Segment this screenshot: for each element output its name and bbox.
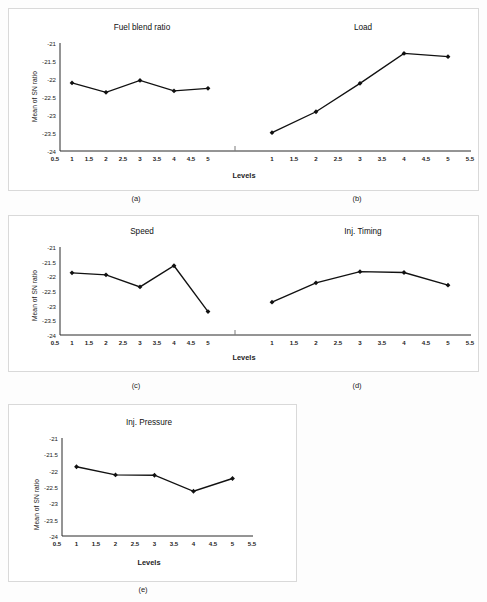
data-point-marker <box>172 88 177 93</box>
data-point-marker <box>358 269 363 274</box>
subfigure-caption-a: (a) <box>116 194 156 203</box>
data-point-marker <box>270 130 275 135</box>
data-point-marker <box>104 90 109 95</box>
data-line-inj-pressure <box>77 467 233 492</box>
data-point-marker <box>270 300 275 305</box>
data-point-marker <box>70 81 75 86</box>
chart-canvas <box>9 216 480 373</box>
data-point-marker <box>314 280 319 285</box>
data-point-marker <box>446 54 451 59</box>
panel-box-e: Inj. Pressure Mean of SN ratio Levels -2… <box>8 404 297 582</box>
chart-canvas <box>9 405 298 583</box>
plot-area-e: -21-21.5-22-22.5-23-23.5-240.511.522.533… <box>9 405 298 583</box>
plot-area-ab: -21-21.5-22-22.5-23-23.5-240.511.522.533… <box>9 9 480 192</box>
subfigure-caption-d: (d) <box>337 381 377 390</box>
data-point-marker <box>402 270 407 275</box>
data-point-marker <box>446 283 451 288</box>
data-point-marker <box>191 489 196 494</box>
data-point-marker <box>230 476 235 481</box>
data-point-marker <box>104 272 109 277</box>
data-point-marker <box>70 270 75 275</box>
panel-box-cd: Speed Inj. Timing Mean of SN ratio Level… <box>8 215 479 372</box>
chart-canvas <box>9 9 480 192</box>
subfigure-caption-b: (b) <box>337 194 377 203</box>
panel-box-ab: Fuel blend ratio Load Mean of SN ratio L… <box>8 8 479 191</box>
figure-page: Fuel blend ratio Load Mean of SN ratio L… <box>0 0 487 602</box>
plot-area-cd: -21-21.5-22-22.5-23-23.5-240.511.522.533… <box>9 216 480 373</box>
data-point-marker <box>152 473 157 478</box>
data-point-marker <box>113 473 118 478</box>
subfigure-caption-c: (c) <box>116 381 156 390</box>
data-point-marker <box>206 86 211 91</box>
subfigure-caption-e: (e) <box>123 585 163 594</box>
data-line-load <box>272 53 448 132</box>
data-point-marker <box>138 78 143 83</box>
data-line-inj-timing <box>272 272 448 303</box>
data-point-marker <box>74 464 79 469</box>
